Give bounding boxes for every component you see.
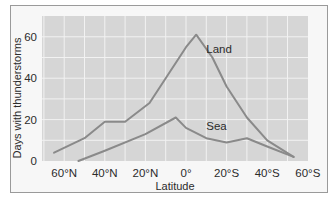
y-tick-label: 20 [24, 114, 37, 126]
series-label-sea: Sea [206, 120, 227, 132]
y-axis-title: Days with thunderstorms [11, 37, 23, 159]
x-tick-label: 40°S [255, 167, 280, 179]
x-axis-ticks: 60°N40°N20°N0°20°S40°S60°S [51, 167, 320, 179]
x-tick-label: 20°N [133, 167, 159, 179]
thunderstorm-line-chart: LandSea 60°N40°N20°N0°20°S40°S60°S 02040… [0, 0, 331, 205]
y-axis-ticks: 0204060 [24, 31, 37, 167]
x-axis-title: Latitude [155, 180, 194, 192]
x-tick-label: 40°N [92, 167, 118, 179]
y-tick-label: 0 [31, 155, 37, 167]
x-tick-label: 0° [181, 167, 192, 179]
x-tick-label: 60°N [51, 167, 77, 179]
y-tick-label: 40 [24, 72, 37, 84]
y-tick-label: 60 [24, 31, 37, 43]
x-tick-label: 20°S [214, 167, 239, 179]
series-label-land: Land [206, 43, 232, 55]
x-tick-label: 60°S [295, 167, 320, 179]
